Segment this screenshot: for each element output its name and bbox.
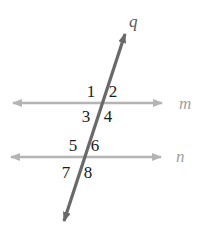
line-m-label: m [179, 94, 191, 113]
angle-label-4: 4 [104, 107, 113, 126]
angle-label-8: 8 [84, 163, 93, 182]
geometry-diagram: q m n 1 2 3 4 5 6 7 8 [0, 0, 207, 230]
angle-label-1: 1 [87, 82, 96, 101]
angle-label-7: 7 [62, 163, 71, 182]
line-n-label: n [176, 147, 185, 166]
angle-label-6: 6 [91, 136, 100, 155]
angle-label-5: 5 [69, 136, 78, 155]
angle-label-2: 2 [109, 82, 118, 101]
angle-label-3: 3 [82, 107, 91, 126]
diagram-canvas: q m n 1 2 3 4 5 6 7 8 [0, 0, 207, 230]
transversal-q [64, 34, 125, 221]
transversal-q-label: q [129, 12, 138, 31]
